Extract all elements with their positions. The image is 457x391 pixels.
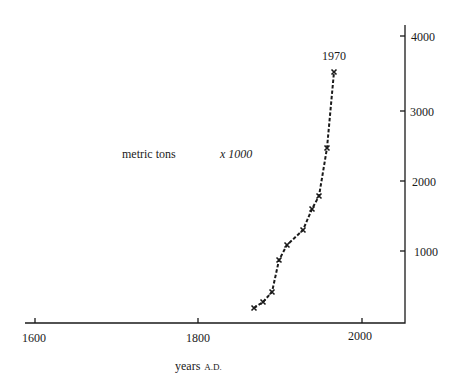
x-tick-1800: 1800 (186, 331, 210, 345)
chart-canvas: 1600 1800 2000 4000 3000 2000 1000 metri… (0, 0, 457, 391)
x-marker-icon (261, 300, 266, 305)
y-tick-3000: 3000 (410, 105, 434, 119)
y-tick-1000: 1000 (414, 245, 438, 259)
x-marker-icon (332, 70, 337, 75)
x-marker-icon (301, 228, 306, 233)
y-axis-multiplier: x 1000 (219, 147, 252, 161)
data-markers (252, 70, 337, 311)
y-axis-label: metric tons (122, 147, 176, 161)
x-tick-2000: 2000 (348, 329, 372, 343)
x-axis-tick-labels: 1600 1800 2000 (22, 329, 372, 345)
x-axis-label: yearsA.D. (175, 359, 222, 373)
x-marker-icon (270, 290, 275, 295)
x-tick-1600: 1600 (22, 331, 46, 345)
data-line (254, 72, 334, 308)
y-axis-tick-labels: 4000 3000 2000 1000 (410, 30, 438, 259)
y-tick-2000: 2000 (412, 175, 436, 189)
y-tick-4000: 4000 (411, 30, 435, 44)
annotation-1970: 1970 (322, 49, 346, 63)
axis-lines (25, 25, 405, 323)
x-axis-ticks (35, 318, 362, 323)
y-axis-ticks (400, 36, 405, 251)
